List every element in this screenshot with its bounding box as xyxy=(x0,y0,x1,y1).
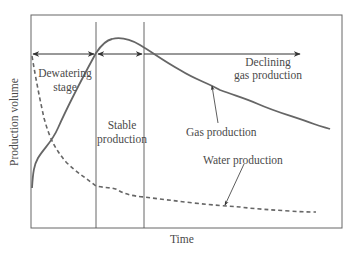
declining-label-line2: gas production xyxy=(228,69,308,81)
dewatering-label-line2: stage xyxy=(37,81,93,93)
water-production-label: Water production xyxy=(203,154,283,166)
stable-label-line1: Stable xyxy=(97,119,147,131)
plot-frame xyxy=(31,15,342,228)
gas-production-label: Gas production xyxy=(186,126,257,138)
dewatering-label-line1: Dewatering xyxy=(37,67,93,79)
diagram-canvas xyxy=(0,0,354,253)
stable-label-line2: production xyxy=(97,133,147,145)
gas-pointer-arrow xyxy=(212,86,218,123)
dewatering-label: Dewatering stage xyxy=(37,67,93,93)
x-axis-label: Time xyxy=(170,233,194,245)
declining-label-line1: Declining xyxy=(228,56,308,68)
stable-production-label: Stable production xyxy=(97,119,147,145)
declining-gas-label: Declining gas production xyxy=(228,56,308,81)
production-stages-diagram: Dewatering stage Stable production Decli… xyxy=(0,0,354,253)
water-pointer-arrow xyxy=(225,164,244,205)
y-axis-label: Production volume xyxy=(8,78,20,166)
